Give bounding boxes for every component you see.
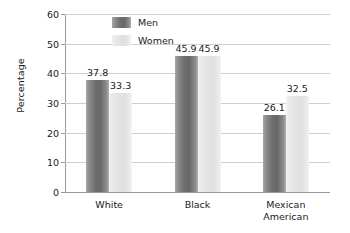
y-axis-tick-label: 60 [31,9,59,20]
bar-value-label: 33.3 [104,80,138,91]
bar-women-white [109,93,132,192]
bar-men-mexican-american [263,115,286,192]
y-axis-tick [61,192,65,193]
bar-group: 26.132.5 [263,14,309,192]
legend-item-men: Men [112,15,198,30]
legend-label-women: Women [138,35,174,46]
y-axis-tick-label: 50 [31,38,59,49]
legend-swatch-women [112,35,131,46]
y-axis-tick-label: 40 [31,68,59,79]
bar-women-black [198,56,221,192]
bar-men-white [86,80,109,192]
x-axis-line [65,192,330,193]
y-axis-title: Percentage [15,46,26,126]
y-axis-tick-label: 0 [31,187,59,198]
bar-women-mexican-american [286,96,309,192]
x-axis-label-black: Black [153,199,243,211]
legend-item-women: Women [112,33,198,48]
y-axis-tick-label: 10 [31,157,59,168]
bar-men-black [175,56,198,192]
bar-value-label: 32.5 [280,83,314,94]
legend: Men Women [112,15,198,51]
legend-swatch-men [112,17,131,28]
bar-value-label: 37.8 [81,67,115,78]
plot-area: 0102030405060 37.833.345.945.926.132.5 M… [65,14,330,192]
bar-chart: Percentage 0102030405060 37.833.345.945.… [0,0,350,233]
x-axis-label-mexican-american: MexicanAmerican [241,199,331,222]
y-axis-tick-label: 20 [31,127,59,138]
x-axis-label-white: White [64,199,154,211]
legend-label-men: Men [138,17,158,28]
y-axis-tick-label: 30 [31,98,59,109]
